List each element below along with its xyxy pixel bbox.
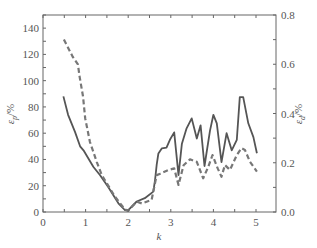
x-axis-title: k xyxy=(157,230,163,242)
plot-frame xyxy=(43,15,276,212)
y-left-tick-label: 60 xyxy=(28,127,40,139)
y-right-axis-title-unit: /% xyxy=(292,104,304,116)
dual-axis-line-chart: 012345 020406080100120140 0.00.20.40.60.… xyxy=(0,0,317,248)
series-epsilon-d-dashed-line xyxy=(64,40,257,211)
x-tick-label: 1 xyxy=(83,216,89,228)
y-right-tick-label: 0.6 xyxy=(281,58,295,70)
y-right-tick-label: 0.2 xyxy=(281,157,295,169)
y-left-tick-label: 0 xyxy=(34,206,40,218)
y-right-tick-label: 0.0 xyxy=(281,206,295,218)
y-left-axis-title: εp/% xyxy=(4,104,19,125)
chart-canvas: 012345 020406080100120140 0.00.20.40.60.… xyxy=(0,0,317,248)
y-left-tick-label: 20 xyxy=(28,180,40,192)
x-tick-label: 4 xyxy=(211,216,217,228)
y-left-axis-ticks: 020406080100120140 xyxy=(23,15,47,218)
series-epsilon-p-solid-line xyxy=(63,96,257,210)
x-tick-label: 3 xyxy=(168,216,174,228)
x-axis-ticks: 012345 xyxy=(40,15,259,228)
y-right-axis-title: εd/% xyxy=(292,104,307,125)
x-tick-label: 2 xyxy=(125,216,131,228)
y-left-tick-label: 100 xyxy=(23,75,40,87)
x-tick-label: 0 xyxy=(40,216,46,228)
y-left-tick-label: 140 xyxy=(23,22,40,34)
plot-series xyxy=(63,40,257,211)
y-left-axis-title-unit: /% xyxy=(4,104,16,116)
x-tick-label: 5 xyxy=(253,216,259,228)
y-right-tick-label: 0.8 xyxy=(281,9,295,21)
y-left-tick-label: 40 xyxy=(28,153,40,165)
y-left-tick-label: 120 xyxy=(23,48,40,60)
y-left-tick-label: 80 xyxy=(28,101,40,113)
